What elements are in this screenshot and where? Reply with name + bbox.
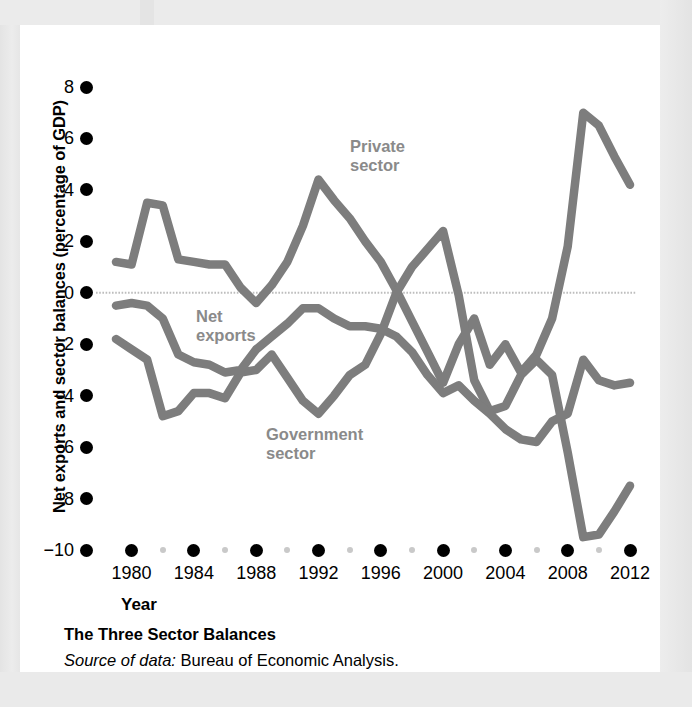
caption-source: Source of data: Bureau of Economic Analy… xyxy=(64,651,644,670)
figure-caption: The Three Sector Balances Source of data… xyxy=(64,625,644,670)
y-tick-label: 4 xyxy=(28,181,74,199)
y-tick-marker xyxy=(80,132,93,145)
x-tick-marker-minor xyxy=(347,547,353,553)
series-label-net-exports: Net exports xyxy=(196,307,256,345)
x-tick-marker-major xyxy=(437,544,450,557)
y-tick-marker xyxy=(80,389,93,402)
y-tick-label: −6 xyxy=(28,438,74,456)
x-tick-label: 2012 xyxy=(602,564,658,582)
y-tick-marker xyxy=(80,338,93,351)
y-tick-label: 2 xyxy=(28,232,74,250)
x-tick-marker-major xyxy=(374,544,387,557)
x-tick-marker-minor xyxy=(160,547,166,553)
y-tick-marker xyxy=(80,183,93,196)
data-lines xyxy=(116,113,630,537)
series-label-government-sector: Government sector xyxy=(266,425,363,463)
series-line-government-sector xyxy=(116,231,630,537)
chart-canvas xyxy=(96,35,644,565)
y-tick-label: 8 xyxy=(28,78,74,96)
y-tick-label: 6 xyxy=(28,129,74,147)
caption-title: The Three Sector Balances xyxy=(64,625,644,644)
x-tick-marker-minor xyxy=(534,547,540,553)
y-tick-label: −2 xyxy=(28,335,74,353)
series-label-private-sector: Private sector xyxy=(350,137,405,175)
x-tick-label: 2004 xyxy=(477,564,533,582)
x-tick-label: 1980 xyxy=(104,564,160,582)
x-tick-marker-major xyxy=(125,544,138,557)
y-tick-marker xyxy=(80,492,93,505)
x-tick-marker-minor xyxy=(596,547,602,553)
figure-panel: Net exports and sector balances (percent… xyxy=(20,25,660,672)
x-tick-marker-minor xyxy=(222,547,228,553)
x-axis-title: Year xyxy=(121,595,157,615)
x-tick-label: 1996 xyxy=(353,564,409,582)
y-tick-marker xyxy=(80,441,93,454)
x-tick-marker-minor xyxy=(409,547,415,553)
page-edge-left xyxy=(0,0,20,707)
y-tick-label: 0 xyxy=(28,284,74,302)
plot-area xyxy=(96,35,644,565)
x-tick-marker-major xyxy=(312,544,325,557)
x-tick-marker-major xyxy=(561,544,574,557)
page-edge-top xyxy=(0,0,692,25)
x-tick-label: 2008 xyxy=(540,564,596,582)
x-tick-label: 2000 xyxy=(415,564,471,582)
caption-source-lead: Source of data: xyxy=(64,651,176,669)
x-tick-label: 1984 xyxy=(166,564,222,582)
y-tick-label: −4 xyxy=(28,387,74,405)
y-tick-marker xyxy=(80,544,93,557)
x-tick-marker-major xyxy=(499,544,512,557)
y-tick-marker xyxy=(80,81,93,94)
y-tick-label: −10 xyxy=(28,541,74,559)
x-tick-marker-major xyxy=(624,544,637,557)
x-tick-label: 1992 xyxy=(290,564,346,582)
y-tick-label: −8 xyxy=(28,490,74,508)
page-edge-bottom xyxy=(0,672,692,707)
y-tick-marker xyxy=(80,235,93,248)
x-tick-label: 1988 xyxy=(228,564,284,582)
page-edge-right xyxy=(660,0,692,707)
x-tick-marker-major xyxy=(187,544,200,557)
page-background: Net exports and sector balances (percent… xyxy=(0,0,692,707)
y-tick-marker xyxy=(80,286,93,299)
x-tick-marker-major xyxy=(250,544,263,557)
caption-source-rest: Bureau of Economic Analysis. xyxy=(176,651,399,669)
